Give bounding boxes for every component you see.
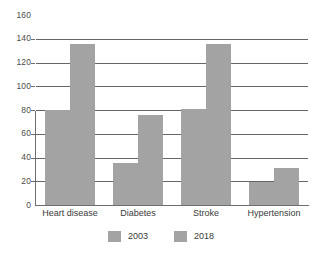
bar — [45, 110, 70, 205]
y-tick-label: 140 — [1, 34, 31, 43]
y-tick-label: 60 — [1, 129, 31, 138]
y-tick-label: 40 — [1, 153, 31, 162]
bar — [70, 44, 95, 206]
y-tick-mark — [31, 63, 35, 64]
y-tick-mark — [31, 134, 35, 135]
y-tick-mark — [31, 158, 35, 159]
y-tick-label: 160 — [1, 11, 31, 20]
x-category-label: Heart disease — [36, 208, 104, 219]
gridline — [36, 39, 308, 40]
x-category-label: Stroke — [172, 208, 240, 219]
legend-swatch-icon — [174, 231, 187, 242]
legend-label: 2018 — [194, 231, 214, 242]
bar — [113, 163, 138, 205]
chart-legend: 20032018 — [0, 231, 322, 242]
y-axis: 020406080100120140160 — [0, 0, 31, 267]
y-tick-label: 80 — [1, 106, 31, 115]
y-tick-mark — [31, 181, 35, 182]
y-tick-label: 100 — [1, 82, 31, 91]
legend-label: 2003 — [128, 231, 148, 242]
y-tick-mark — [31, 86, 35, 87]
x-axis-line — [35, 205, 309, 206]
y-tick-mark — [31, 110, 35, 111]
y-tick-label: 20 — [1, 177, 31, 186]
legend-item: 2003 — [108, 231, 148, 242]
y-tick-mark — [31, 39, 35, 40]
y-axis-line — [35, 111, 36, 206]
bar — [206, 44, 231, 206]
x-category-label: Hypertension — [240, 208, 308, 219]
x-category-label: Diabetes — [104, 208, 172, 219]
legend-item: 2018 — [174, 231, 214, 242]
bar-chart: 020406080100120140160 Heart diseaseDiabe… — [0, 0, 322, 267]
y-tick-label: 0 — [1, 201, 31, 210]
y-tick-label: 120 — [1, 58, 31, 67]
bar — [249, 182, 274, 205]
bar — [181, 109, 206, 205]
bar — [138, 115, 163, 205]
legend-swatch-icon — [108, 231, 121, 242]
bar — [274, 168, 299, 205]
